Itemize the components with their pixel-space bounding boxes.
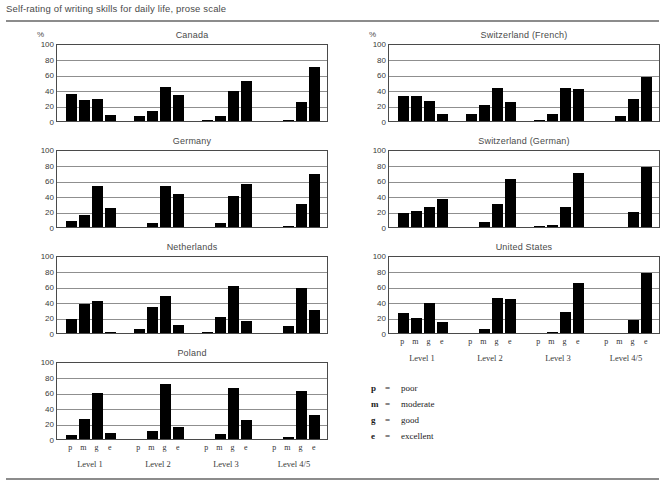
bar [437,322,448,333]
bar [411,318,422,333]
x-axis-tick-label: p [536,336,540,348]
footer-rule [6,478,659,480]
x-axis-tick-label: m [548,336,554,348]
x-axis-tick-label: e [576,336,580,348]
panel-title: United States [388,242,660,252]
x-axis-tick-label: m [616,336,622,348]
group-label: Level 3 [545,352,571,365]
bar [398,313,409,333]
legend-key: m [371,399,383,409]
legend-key: g [371,415,383,425]
x-axis-tick-label: p [604,336,608,348]
bar [641,273,652,333]
x-axis-tick-label: e [508,336,512,348]
legend-label: poor [401,383,418,393]
grid-line [389,288,659,289]
y-axis-tick-label: 80 [377,269,386,277]
bar [424,303,435,333]
x-axis-tick-label: e [644,336,648,348]
legend-equals-sign: = [385,431,390,441]
bar [505,299,516,333]
chart-panel: United States020406080100pmgepmgepmgepmg… [0,0,665,491]
x-axis-tick-label: g [563,336,567,348]
figure-root: Self-rating of writing skills for daily … [0,0,665,491]
x-axis-tick-label: g [631,336,635,348]
x-axis-tick-label: m [480,336,486,348]
plot-area: 020406080100 [388,256,660,334]
x-axis-tick-label: p [400,336,404,348]
legend-equals-sign: = [385,399,390,409]
y-axis-tick-label: 0 [382,331,386,339]
x-axis-tick-label: g [427,336,431,348]
legend-label: good [401,415,419,425]
legend-equals-sign: = [385,383,390,393]
x-axis-tick-label: p [468,336,472,348]
legend-label: excellent [401,431,433,441]
x-axis-labels: pmgepmgepmgepmge [388,336,660,348]
group-labels: Level 1Level 2Level 3Level 4/5 [388,352,660,365]
grid-line [389,272,659,273]
bar [547,332,558,333]
group-label: Level 1 [409,352,435,365]
bar [560,312,571,333]
y-axis-tick-label: 40 [377,300,386,308]
bar [479,329,490,333]
x-axis-tick-label: e [440,336,444,348]
y-axis-tick-label: 100 [373,253,386,261]
x-axis-tick-label: m [412,336,418,348]
bar [492,298,503,333]
legend-equals-sign: = [385,415,390,425]
legend-key: e [371,431,383,441]
bar [628,320,639,333]
x-axis-tick-label: g [495,336,499,348]
legend-key: p [371,383,383,393]
bar [573,283,584,333]
y-axis-tick-label: 20 [377,315,386,323]
legend-label: moderate [401,399,434,409]
y-axis-tick-label: 60 [377,284,386,292]
group-label: Level 4/5 [610,352,642,365]
group-label: Level 2 [477,352,503,365]
